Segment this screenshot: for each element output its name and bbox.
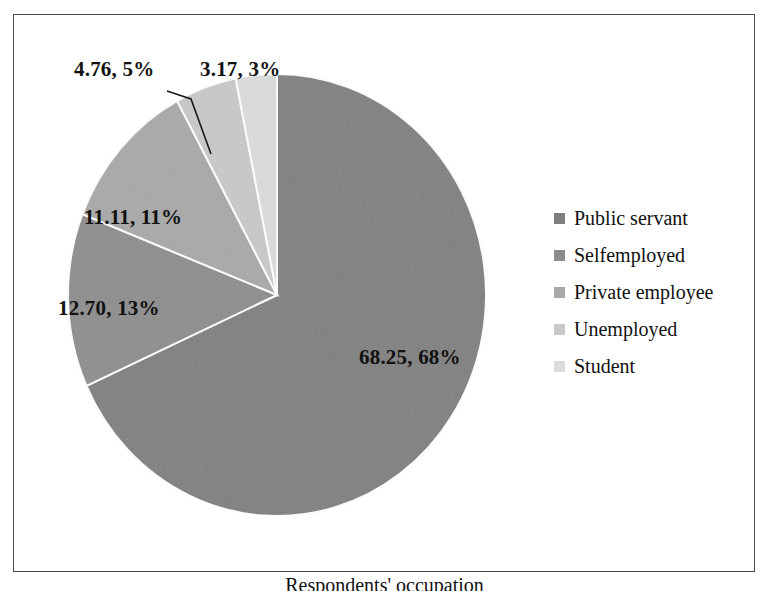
legend-item-private-employee: Private employee bbox=[554, 274, 754, 311]
legend-swatch-icon bbox=[554, 250, 565, 261]
pie-slices bbox=[68, 74, 486, 516]
data-label-private-employee: 11.11, 11% bbox=[84, 205, 182, 230]
axis-title: Respondents' occupation bbox=[0, 574, 769, 591]
legend-item-unemployed: Unemployed bbox=[554, 311, 754, 348]
legend-item-student: Student bbox=[554, 348, 754, 385]
legend-label: Private employee bbox=[574, 281, 713, 304]
legend-swatch-icon bbox=[554, 324, 565, 335]
legend-swatch-icon bbox=[554, 361, 565, 372]
legend-label: Unemployed bbox=[574, 318, 677, 341]
legend-swatch-icon bbox=[554, 287, 565, 298]
legend-label: Student bbox=[574, 355, 635, 378]
legend-item-selfemployed: Selfemployed bbox=[554, 237, 754, 274]
data-label-unemployed: 4.76, 5% bbox=[74, 57, 154, 82]
data-label-selfemployed: 12.70, 13% bbox=[58, 296, 160, 321]
data-label-public-servant: 68.25, 68% bbox=[359, 345, 461, 370]
pie-chart bbox=[59, 72, 495, 518]
chart-frame: 68.25, 68% 12.70, 13% 11.11, 11% 4.76, 5… bbox=[13, 14, 755, 572]
legend-label: Public servant bbox=[574, 207, 688, 230]
legend-item-public-servant: Public servant bbox=[554, 200, 754, 237]
plot-area: 68.25, 68% 12.70, 13% 11.11, 11% 4.76, 5… bbox=[14, 15, 756, 573]
chart-legend: Public servant Selfemployed Private empl… bbox=[554, 200, 754, 385]
legend-label: Selfemployed bbox=[574, 244, 685, 267]
data-label-student: 3.17, 3% bbox=[200, 57, 280, 82]
legend-swatch-icon bbox=[554, 213, 565, 224]
